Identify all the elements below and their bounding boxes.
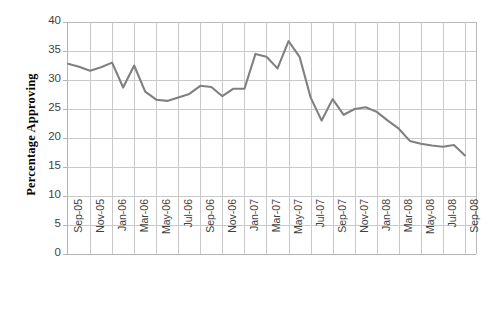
x-axis-tick-label: May-08 [424,199,436,259]
x-axis-tick-label: Mar-06 [138,199,150,259]
y-axis-tick-label: 35 [34,43,61,55]
y-axis-tick-label: 5 [34,217,61,229]
x-axis-tick-label: Sep-07 [336,199,348,259]
x-axis-tick-label: Jan-06 [116,199,128,259]
x-axis-tick-label: Sep-08 [468,199,480,259]
x-axis-tick-label: Jul-06 [182,199,194,259]
x-axis-tick-label: May-06 [160,199,172,259]
x-axis-tick-label: Nov-06 [226,199,238,259]
x-axis-tick-label: Mar-08 [402,199,414,259]
x-axis-tick-label: Jul-08 [446,199,458,259]
x-axis-tick-label: Nov-07 [358,199,370,259]
x-axis-tick-label: Sep-05 [72,199,84,259]
y-axis-tick-label: 30 [34,72,61,84]
x-axis-tick-label: Nov-05 [94,199,106,259]
x-axis-tick-label: Sep-06 [204,199,216,259]
y-axis-tick-label: 15 [34,159,61,171]
x-axis-tick-label: Jul-07 [314,199,326,259]
y-axis-tick-label: 20 [34,130,61,142]
y-axis-tick-label: 25 [34,101,61,113]
x-axis-tick-label: Jan-07 [248,199,260,259]
y-axis-tick-label: 10 [34,188,61,200]
line-chart: Percentage Approving 0510152025303540 Se… [0,0,494,324]
x-axis-tick-label: Jan-08 [380,199,392,259]
x-axis-tick-label: Mar-07 [270,199,282,259]
x-axis-tick-label: May-07 [292,199,304,259]
y-axis-tick-label: 0 [34,246,61,258]
y-axis-tick-label: 40 [34,14,61,26]
